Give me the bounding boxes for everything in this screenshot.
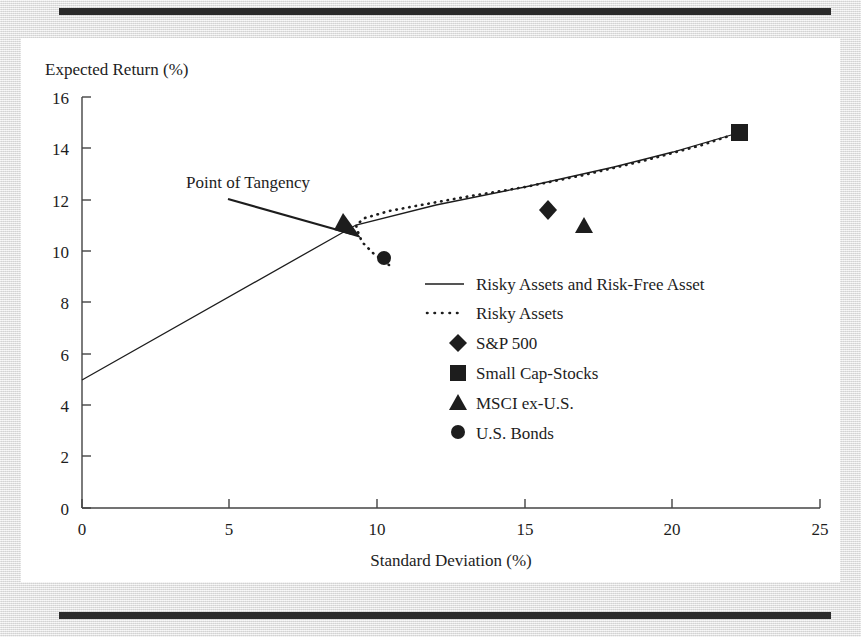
efficient-frontier-chart: Expected Return (%) 16 14 12 10 8 6 4 2 (21, 38, 840, 582)
legend-label-risky-and-riskfree: Risky Assets and Risk-Free Asset (476, 275, 705, 294)
y-tick-label: 0 (61, 500, 70, 519)
y-tick-label: 4 (61, 397, 70, 416)
y-tick-label: 6 (61, 346, 70, 365)
legend-label-sp-500: S&P 500 (476, 334, 537, 353)
x-axis-ticks (82, 499, 820, 508)
marker-sp-500 (539, 200, 557, 220)
x-tick-label: 25 (812, 520, 829, 539)
x-axis-tick-labels: 0 5 10 15 20 25 (78, 520, 829, 539)
annotation-arrow-shaft (228, 199, 352, 234)
marker-small-cap-stocks (731, 124, 748, 141)
x-tick-label: 20 (664, 520, 681, 539)
x-tick-label: 15 (517, 520, 534, 539)
marker-us-bonds (377, 251, 391, 265)
top-rule (59, 8, 831, 15)
y-axis-title: Expected Return (%) (45, 60, 189, 79)
marker-msci-ex-us (575, 217, 593, 233)
data-markers (377, 124, 748, 265)
bottom-rule (59, 612, 831, 619)
series-line-risky-and-riskfree (82, 133, 738, 380)
x-axis-title: Standard Deviation (%) (370, 551, 531, 570)
legend-label-risky-assets: Risky Assets (476, 304, 563, 323)
legend-swatch-square (450, 365, 466, 381)
y-tick-label: 16 (52, 89, 69, 108)
annotation-point-of-tangency: Point of Tangency (186, 173, 361, 238)
y-tick-label: 8 (61, 294, 70, 313)
y-tick-label: 2 (61, 448, 70, 467)
y-tick-label: 12 (52, 192, 69, 211)
legend-label-small-cap-stocks: Small Cap-Stocks (476, 364, 598, 383)
chart-panel: Expected Return (%) 16 14 12 10 8 6 4 2 (21, 38, 840, 582)
legend-swatch-circle (451, 425, 465, 439)
y-axis-ticks (82, 97, 91, 508)
x-tick-label: 0 (78, 520, 87, 539)
legend-swatch-diamond (449, 334, 467, 352)
chart-legend: Risky Assets and Risk-Free Asset Risky A… (425, 275, 705, 443)
y-axis-tick-labels: 16 14 12 10 8 6 4 2 0 (52, 89, 70, 519)
annotation-label: Point of Tangency (186, 173, 311, 192)
x-tick-label: 10 (369, 520, 386, 539)
y-tick-label: 10 (52, 243, 69, 262)
legend-label-msci-ex-us: MSCI ex-U.S. (476, 394, 574, 413)
x-tick-label: 5 (225, 520, 234, 539)
legend-label-us-bonds: U.S. Bonds (476, 424, 554, 443)
series-line-risky-assets (356, 133, 738, 265)
y-tick-label: 14 (52, 140, 70, 159)
legend-swatch-triangle (449, 394, 467, 410)
